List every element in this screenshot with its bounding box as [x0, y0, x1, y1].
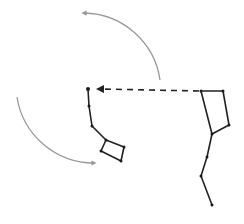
star-alkaid	[211, 204, 214, 207]
star-bowl-1	[123, 146, 126, 149]
star-handle-3	[91, 125, 94, 128]
big-dipper-constellation	[200, 90, 231, 207]
pointer-line	[100, 89, 199, 91]
constellation-lines	[88, 89, 124, 161]
star-handle-2	[88, 105, 91, 108]
star-bowl-2	[120, 160, 123, 163]
rotation-arrow-top	[84, 13, 160, 80]
star-mizar	[200, 175, 203, 178]
star-handle-4	[105, 139, 108, 142]
star-merak	[222, 90, 225, 93]
star-megrez	[211, 133, 214, 136]
big-dipper-polaris-diagram	[0, 0, 244, 224]
star-dubhe	[200, 90, 203, 93]
star-bowl-3	[100, 150, 103, 153]
diagram-canvas	[0, 0, 244, 224]
little-dipper-constellation	[86, 87, 126, 163]
star-phecda	[228, 124, 231, 127]
constellation-lines	[201, 91, 229, 205]
star-polaris	[86, 87, 90, 91]
star-alioth	[206, 156, 209, 159]
rotation-arrow-left	[17, 97, 94, 163]
